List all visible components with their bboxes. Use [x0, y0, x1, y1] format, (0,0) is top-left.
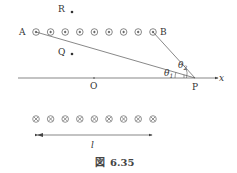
- label-P: P: [192, 82, 198, 92]
- cross-circle-icon: [91, 116, 98, 123]
- caption-number: 6.35: [110, 157, 134, 168]
- label-length: l: [91, 140, 94, 150]
- label-theta2: θ2: [178, 60, 187, 71]
- dot-circle-icon: [120, 29, 127, 36]
- dot-circle-icon: [77, 29, 84, 36]
- cross-circle-icon: [62, 116, 69, 123]
- angle-arc-theta1: [175, 72, 176, 78]
- cross-circle-icon: [150, 116, 157, 123]
- cross-circle-icon: [120, 116, 127, 123]
- caption-prefix: 図: [95, 157, 105, 168]
- label-A: A: [18, 27, 26, 37]
- label-x: x: [219, 73, 224, 83]
- point-O: [93, 77, 95, 79]
- dot-circle-icon: [91, 29, 98, 36]
- point-Q: [71, 53, 74, 56]
- label-B: B: [160, 27, 167, 37]
- dot-circle-icon: [62, 29, 69, 36]
- cross-circle-icon: [77, 116, 84, 123]
- bottom-current-row: [33, 116, 157, 123]
- point-R: [71, 11, 74, 14]
- label-theta1: θ1: [164, 68, 173, 79]
- cross-circle-icon: [106, 116, 113, 123]
- cross-circle-icon: [47, 116, 54, 123]
- dot-circle-icon: [135, 29, 142, 36]
- label-Q: Q: [58, 47, 65, 57]
- cross-circle-icon: [33, 116, 40, 123]
- dot-circle-icon: [106, 29, 113, 36]
- label-R: R: [58, 4, 65, 14]
- line-B-P: [153, 32, 195, 78]
- top-current-row: [33, 29, 157, 36]
- dot-circle-icon: [47, 29, 54, 36]
- cross-circle-icon: [135, 116, 142, 123]
- label-O: O: [90, 81, 97, 91]
- figure-6-35: R Q A B x O P θ1 θ2: [0, 0, 237, 173]
